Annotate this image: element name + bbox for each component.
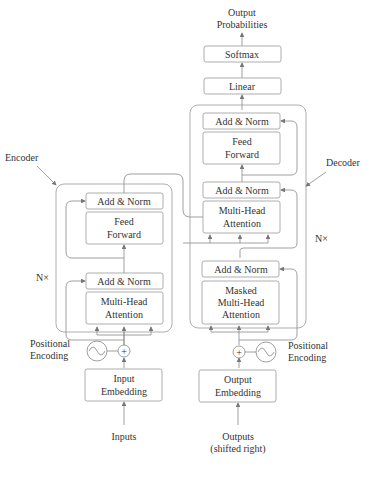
input-embedding-label-2: Embedding — [101, 386, 147, 397]
linear-label: Linear — [229, 81, 256, 92]
decoder-mha-label-2: Attention — [223, 218, 261, 229]
transformer-diagram: Output Probabilities Softmax Linear Enco… — [0, 0, 367, 487]
decoder-pe-label-1: Positional — [288, 340, 328, 351]
encoder-mha-label-2: Attention — [105, 309, 143, 320]
plus-icon: + — [121, 346, 127, 357]
decoder-repeat-label: N× — [315, 233, 328, 244]
encoder-add-norm-top-label: Add & Norm — [97, 196, 151, 207]
encoder-ff-label-1: Feed — [114, 216, 133, 227]
plus-icon: + — [236, 347, 242, 358]
encoder-mha-label-1: Multi-Head — [101, 296, 148, 307]
decoder-ff-label-1: Feed — [232, 136, 251, 147]
outputs-label-1: Outputs — [222, 431, 254, 442]
encoder-pe-label-2: Encoding — [30, 350, 68, 361]
encoder-label: Encoder — [5, 152, 39, 163]
decoder-add-norm-mid-label: Add & Norm — [215, 185, 269, 196]
decoder-pe-label-2: Encoding — [288, 352, 326, 363]
encoder-add-norm-bottom-label: Add & Norm — [97, 276, 151, 287]
decoder-ff-label-2: Forward — [225, 149, 259, 160]
decoder-label: Decoder — [326, 157, 361, 168]
output-probabilities-label-1: Output — [228, 7, 256, 18]
output-embedding-label-2: Embedding — [215, 387, 261, 398]
encoder-pe-label-1: Positional — [30, 338, 70, 349]
decoder-add-norm-top-label: Add & Norm — [215, 116, 269, 127]
inputs-label: Inputs — [112, 431, 137, 442]
decoder-mha-label-1: Multi-Head — [219, 205, 266, 216]
output-probabilities-label-2: Probabilities — [217, 19, 268, 30]
output-embedding-label-1: Output — [224, 374, 252, 385]
input-embedding-label-1: Input — [113, 373, 134, 384]
outputs-label-2: (shifted right) — [210, 443, 265, 455]
decoder-masked-label-3: Attention — [222, 309, 260, 320]
decoder-masked-label-1: Masked — [225, 285, 257, 296]
decoder-add-norm-bottom-label: Add & Norm — [214, 264, 268, 275]
encoder-ff-label-2: Forward — [107, 229, 141, 240]
softmax-label: Softmax — [225, 49, 259, 60]
encoder-repeat-label: N× — [36, 272, 49, 283]
decoder-masked-label-2: Multi-Head — [218, 297, 265, 308]
